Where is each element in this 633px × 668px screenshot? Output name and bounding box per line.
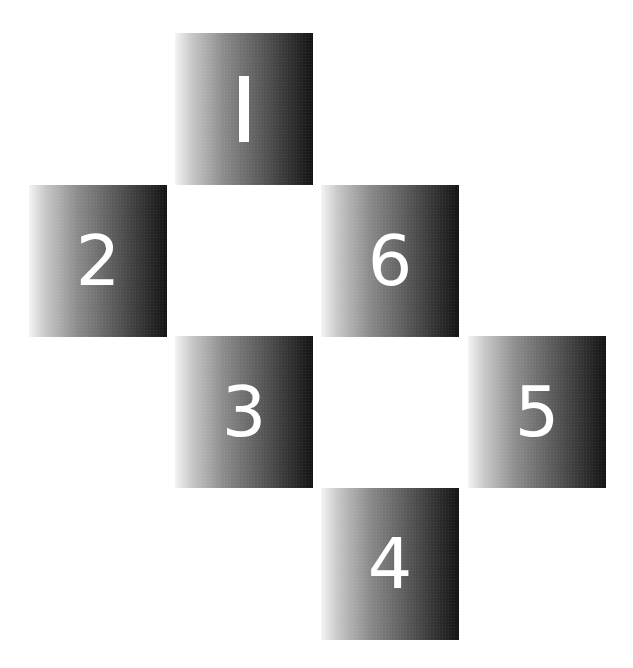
tile-4: 4 [321,488,459,640]
tile-number-4: 4 [368,529,413,599]
tile-1: 1 [175,33,313,185]
tile-number-5: 5 [515,377,560,447]
tile-number-3: 3 [222,377,267,447]
tile-5: 5 [468,336,606,488]
tile-number-2: 2 [76,226,121,296]
tile-number-1: 1 [239,76,249,142]
tile-3: 3 [175,336,313,488]
tile-2: 2 [29,185,167,337]
tile-number-6: 6 [368,226,413,296]
tile-6: 6 [321,185,459,337]
